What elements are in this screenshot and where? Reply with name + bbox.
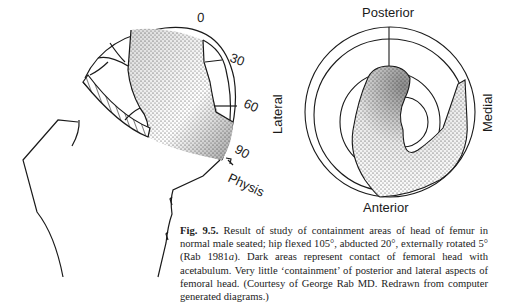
femoral-head-polar-view <box>305 27 475 197</box>
anterior-label: Anterior <box>363 200 409 215</box>
figure-number: Fig. 9.5. <box>180 225 218 236</box>
lateral-label: Lateral <box>270 94 285 134</box>
posterior-label: Posterior <box>362 5 414 20</box>
medial-label: Medial <box>480 94 495 132</box>
figure-caption: Fig. 9.5. Result of study of containment… <box>180 224 488 303</box>
